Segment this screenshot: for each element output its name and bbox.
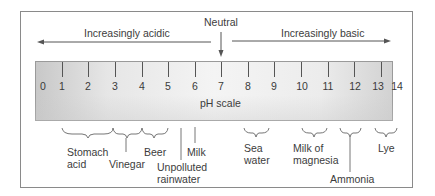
label-milk: Milk	[187, 146, 206, 158]
label-sea-water-line2: water	[244, 154, 270, 166]
label-mom-line2: magnesia	[293, 154, 339, 166]
label-rainwater-line1: Unpolluted	[157, 161, 207, 173]
brace-beer	[142, 128, 168, 138]
label-unpolluted-rainwater: Unpolluted rainwater	[157, 161, 207, 185]
label-stomach-acid-line2: acid	[67, 158, 108, 170]
label-sea-water: Sea water	[244, 142, 270, 166]
label-beer: Beer	[144, 146, 166, 158]
label-rainwater-line2: rainwater	[157, 173, 207, 185]
brace-milk-of-magnesia	[302, 128, 327, 137]
brace-ammonia	[340, 128, 361, 137]
label-mom-line1: Milk of	[293, 142, 339, 154]
label-vinegar: Vinegar	[109, 158, 145, 170]
brace-sea-water	[244, 128, 269, 137]
neutral-arrow-icon	[219, 32, 224, 57]
label-lye: Lye	[378, 142, 395, 154]
brace-stomach-acid	[62, 128, 113, 138]
diagram-lines	[0, 0, 435, 196]
acidic-arrow-icon	[37, 40, 211, 45]
label-milk-of-magnesia: Milk of magnesia	[293, 142, 339, 166]
label-sea-water-line1: Sea	[244, 142, 270, 154]
brace-vinegar	[113, 128, 142, 138]
label-stomach-acid-line1: Stomach	[67, 146, 108, 158]
label-ammonia: Ammonia	[330, 173, 374, 185]
label-stomach-acid: Stomach acid	[67, 146, 108, 170]
brace-lye	[375, 128, 397, 137]
basic-arrow-icon	[232, 39, 391, 44]
